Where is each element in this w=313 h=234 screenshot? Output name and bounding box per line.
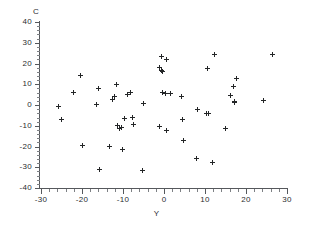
data-point — [120, 147, 125, 152]
data-point — [164, 128, 169, 133]
x-tick-major — [164, 189, 165, 194]
x-tick-minor — [172, 189, 173, 192]
x-axis-title: Y — [0, 210, 313, 218]
x-tick-label: 0 — [149, 196, 179, 204]
data-point — [261, 98, 266, 103]
x-tick-label: 30 — [272, 196, 302, 204]
data-point — [140, 168, 145, 173]
x-tick-minor — [262, 189, 263, 192]
x-tick-minor — [213, 189, 214, 192]
x-tick-minor — [131, 189, 132, 192]
data-point — [231, 84, 236, 89]
x-tick-minor — [180, 189, 181, 192]
x-tick-label: -30 — [26, 196, 56, 204]
data-point — [210, 160, 215, 165]
data-point — [80, 143, 85, 148]
data-point — [179, 94, 184, 99]
data-point — [270, 52, 275, 57]
x-tick-minor — [74, 189, 75, 192]
y-tick-label: 30 — [6, 39, 32, 47]
y-tick-label: 10 — [6, 80, 32, 88]
y-tick-label: 0 — [6, 101, 32, 109]
y-axis-title: C — [33, 8, 39, 16]
data-point — [78, 73, 83, 78]
x-tick-minor — [238, 189, 239, 192]
data-point — [122, 116, 127, 121]
data-point — [194, 156, 199, 161]
x-tick-major — [287, 189, 288, 194]
data-point — [94, 102, 99, 107]
y-tick-label: -10 — [6, 122, 32, 130]
y-tick-label: -30 — [6, 163, 32, 171]
y-tick-label: 20 — [6, 60, 32, 68]
data-point — [119, 125, 124, 130]
x-tick-minor — [156, 189, 157, 192]
data-point — [128, 90, 133, 95]
x-tick-minor — [189, 189, 190, 192]
data-point — [164, 57, 169, 62]
data-point — [181, 138, 186, 143]
data-point — [223, 126, 228, 131]
data-point — [56, 104, 61, 109]
x-tick-minor — [221, 189, 222, 192]
data-point — [195, 107, 200, 112]
x-tick-minor — [49, 189, 50, 192]
y-tick-label: 40 — [6, 18, 32, 26]
data-point — [157, 124, 162, 129]
data-point — [141, 101, 146, 106]
x-tick-major — [246, 189, 247, 194]
x-tick-minor — [254, 189, 255, 192]
x-tick-minor — [197, 189, 198, 192]
data-point — [232, 100, 237, 105]
x-tick-minor — [57, 189, 58, 192]
data-point — [160, 69, 165, 74]
data-point — [107, 144, 112, 149]
data-point — [228, 93, 233, 98]
x-tick-minor — [98, 189, 99, 192]
data-point — [131, 122, 136, 127]
x-tick-label: 20 — [231, 196, 261, 204]
data-point — [180, 117, 185, 122]
data-point — [206, 111, 211, 116]
data-point — [112, 94, 117, 99]
x-tick-label: 10 — [190, 196, 220, 204]
y-tick-label: -40 — [6, 184, 32, 192]
x-tick-major — [41, 189, 42, 194]
x-tick-label: -20 — [67, 196, 97, 204]
plot-area — [40, 22, 287, 188]
data-point — [97, 167, 102, 172]
data-point — [205, 66, 210, 71]
x-tick-minor — [107, 189, 108, 192]
y-tick-major — [35, 188, 40, 189]
data-point — [71, 90, 76, 95]
x-tick-minor — [90, 189, 91, 192]
x-tick-major — [205, 189, 206, 194]
y-tick-label: -20 — [6, 143, 32, 151]
x-tick-minor — [115, 189, 116, 192]
data-point — [114, 82, 119, 87]
data-point — [59, 117, 64, 122]
x-tick-minor — [66, 189, 67, 192]
x-tick-major — [123, 189, 124, 194]
x-tick-minor — [230, 189, 231, 192]
x-tick-minor — [148, 189, 149, 192]
x-tick-minor — [271, 189, 272, 192]
data-point — [96, 86, 101, 91]
data-point — [212, 52, 217, 57]
x-tick-major — [82, 189, 83, 194]
data-point — [130, 115, 135, 120]
x-tick-minor — [139, 189, 140, 192]
scatter-plot-figure: C Y 403020100-10-20-30-40 -30-20-1001020… — [0, 0, 313, 234]
data-point — [168, 91, 173, 96]
data-point — [234, 76, 239, 81]
x-tick-label: -10 — [108, 196, 138, 204]
x-tick-minor — [279, 189, 280, 192]
